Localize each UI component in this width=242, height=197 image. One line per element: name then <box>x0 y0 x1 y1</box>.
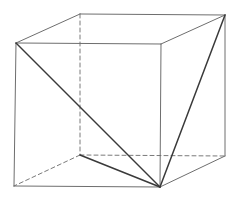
edge-front-top-right-to-front-bottom-right <box>160 44 161 187</box>
edge-front-bottom-left-to-front-top-left <box>14 43 16 186</box>
edge-front-top-left-to-back-top-left <box>16 14 80 43</box>
cube-diagram <box>0 0 242 197</box>
hidden-edge-back-bottom-left-to-front-bottom-left <box>14 155 80 186</box>
edge-back-top-left-to-back-top-right <box>80 14 225 15</box>
diagonal-front-top-left-to-front-bottom-right <box>16 43 160 187</box>
triangle-diagonals <box>16 15 225 187</box>
edge-front-top-left-to-front-top-right <box>16 43 161 44</box>
edge-front-bottom-right-to-front-bottom-left <box>14 186 160 187</box>
diagonal-back-bottom-left-to-front-bottom-right <box>80 155 160 187</box>
hidden-edge-back-bottom-left-to-back-bottom-right <box>80 155 225 156</box>
